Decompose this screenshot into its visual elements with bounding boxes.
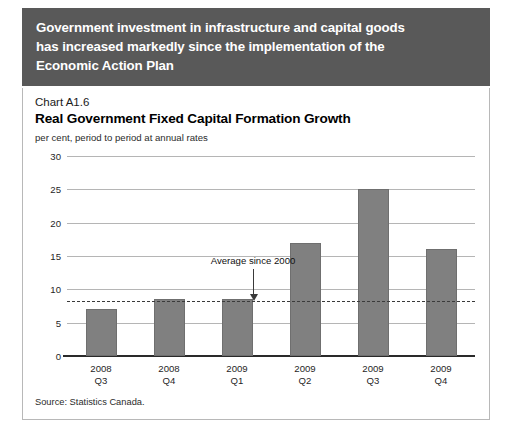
- y-axis-tick-label: 30: [50, 151, 61, 162]
- y-axis-tick-label: 20: [50, 217, 61, 228]
- x-axis-tick-label-line: 2009: [226, 363, 247, 375]
- bar: [86, 309, 117, 356]
- y-axis-tick-label: 25: [50, 184, 61, 195]
- headline-line-2: has increased markedly since the impleme…: [36, 37, 476, 56]
- annotation-arrow-icon: [250, 294, 258, 301]
- bar: [222, 299, 253, 356]
- gridline: [67, 223, 475, 224]
- gridline: [67, 323, 475, 324]
- headline-line-1: Government investment in infrastructure …: [36, 18, 476, 37]
- y-axis-tick-label: 15: [50, 251, 61, 262]
- chart-number: Chart A1.6: [35, 96, 89, 108]
- average-line: [67, 301, 475, 302]
- x-axis-tick-label-line: 2009: [430, 363, 451, 375]
- gridline: [67, 156, 475, 157]
- source-note: Source: Statistics Canada.: [35, 397, 145, 407]
- annotation-pointer-line: [253, 269, 254, 294]
- y-axis-tick-label: 10: [50, 284, 61, 295]
- gridline: [67, 189, 475, 190]
- headline-banner: Government investment in infrastructure …: [22, 8, 490, 86]
- bar: [154, 299, 185, 356]
- bar: [358, 189, 389, 356]
- x-axis-tick-label: 2009Q3: [362, 363, 383, 387]
- gridline: [67, 289, 475, 290]
- x-axis-tick-label: 2008Q3: [90, 363, 111, 387]
- x-axis-tick-label: 2009Q2: [294, 363, 315, 387]
- x-axis-tick-label-line: 2009: [362, 363, 383, 375]
- chart-subtitle: per cent, period to period at annual rat…: [35, 132, 208, 143]
- x-axis-tick-label-line: Q2: [294, 375, 315, 387]
- plot-area: 0510152025302008Q32008Q42009Q12009Q22009…: [67, 156, 475, 356]
- headline-line-3: Economic Action Plan: [36, 56, 476, 75]
- x-axis-tick-label-line: Q1: [226, 375, 247, 387]
- x-axis-tick-label: 2009Q4: [430, 363, 451, 387]
- x-axis-tick-label-line: Q3: [362, 375, 383, 387]
- x-axis-tick-label-line: Q3: [90, 375, 111, 387]
- y-axis-tick-label: 5: [56, 317, 61, 328]
- chart-title: Real Government Fixed Capital Formation …: [35, 111, 351, 126]
- bar: [426, 249, 457, 356]
- annotation-label: Average since 2000: [211, 255, 296, 266]
- x-axis-tick-label-line: Q4: [158, 375, 179, 387]
- x-axis-tick-label-line: 2008: [90, 363, 111, 375]
- x-axis-tick-label: 2009Q1: [226, 363, 247, 387]
- y-axis-tick-label: 0: [56, 351, 61, 362]
- x-axis-tick-label-line: Q4: [430, 375, 451, 387]
- x-axis-line: [63, 355, 475, 357]
- chart-screenshot: Government investment in infrastructure …: [0, 0, 512, 442]
- x-axis-tick-label-line: 2008: [158, 363, 179, 375]
- x-axis-tick-label: 2008Q4: [158, 363, 179, 387]
- chart-panel: Chart A1.6 Real Government Fixed Capital…: [22, 88, 490, 420]
- x-axis-tick-label-line: 2009: [294, 363, 315, 375]
